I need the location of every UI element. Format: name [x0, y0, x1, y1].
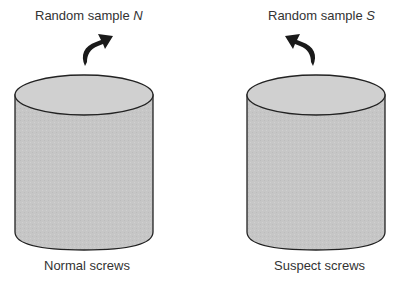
sample-prefix: Random sample: [35, 8, 133, 23]
random-sample-s-label: Random sample S: [268, 8, 375, 23]
sample-prefix: Random sample: [268, 8, 366, 23]
normal-screws-container: [15, 75, 153, 250]
arrow-up-right-icon: [83, 34, 113, 66]
normal-screws-label: Normal screws: [44, 258, 130, 273]
suspect-screws-label: Suspect screws: [274, 258, 365, 273]
diagram-canvas: [0, 0, 395, 285]
suspect-screws-container: [247, 75, 385, 250]
random-sample-n-label: Random sample N: [35, 8, 143, 23]
arrow-up-left-icon: [285, 34, 315, 66]
sample-variable-n: N: [133, 8, 142, 23]
sample-variable-s: S: [366, 8, 375, 23]
